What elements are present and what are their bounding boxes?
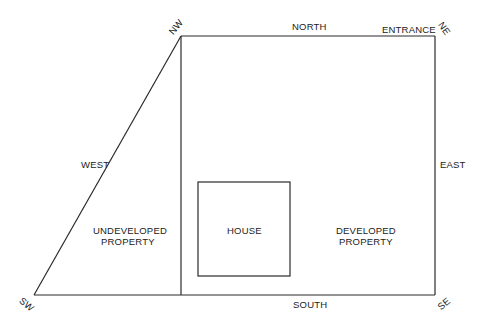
south-label: SOUTH: [293, 299, 327, 310]
undeveloped-label-line2: PROPERTY: [101, 236, 155, 247]
corner-sw-label: SW: [17, 295, 36, 314]
north-label: NORTH: [292, 21, 327, 32]
house-label: HOUSE: [227, 225, 262, 236]
entrance-label: ENTRANCE: [382, 24, 436, 35]
west-label: WEST: [81, 159, 109, 170]
corner-nw-label: NW: [166, 17, 185, 37]
corner-ne-label: NE: [436, 19, 453, 36]
developed-label-line1: DEVELOPED: [336, 225, 396, 236]
corner-se-label: SE: [435, 295, 452, 312]
property-diagram: NW NE SE SW NORTH ENTRANCE EAST WEST SOU…: [0, 0, 486, 330]
undeveloped-label-line1: UNDEVELOPED: [93, 225, 167, 236]
developed-label-line2: PROPERTY: [339, 236, 393, 247]
east-label: EAST: [440, 159, 466, 170]
